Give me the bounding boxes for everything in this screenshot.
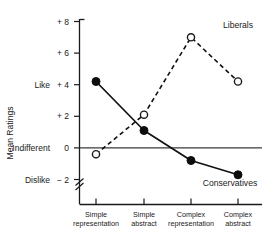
x-category-label-2-line1: Complex	[177, 210, 206, 219]
y-tick-label-zero: 0	[64, 143, 69, 153]
y-axis-break-icon	[76, 179, 84, 205]
series-line-conservatives	[96, 82, 238, 175]
y-label-like: Like	[34, 80, 50, 90]
series-label-conservatives: Conservatives	[203, 178, 257, 188]
x-category-label-0-line2: representation	[73, 219, 119, 228]
data-point-conservatives-1	[140, 127, 148, 135]
series-layer	[92, 34, 242, 179]
x-category-label-3-line2: abstract	[225, 219, 251, 228]
y-tick-label-minus2: − 2	[57, 175, 69, 185]
data-point-liberals-1	[140, 111, 147, 118]
data-point-liberals-3	[234, 78, 241, 85]
y-tick-label-plus2: + 2	[57, 111, 69, 121]
data-point-conservatives-2	[187, 157, 195, 165]
series-label-liberals: Liberals	[223, 20, 253, 30]
x-category-label-0-line1: Simple	[85, 210, 107, 219]
x-category-label-2-line2: representation	[168, 219, 214, 228]
data-point-conservatives-0	[92, 78, 100, 86]
y-tick-label-plus6: + 6	[57, 48, 69, 58]
series-line-liberals	[96, 37, 238, 154]
mean-ratings-line-chart: Mean Ratings + 8 + 6 + 4 + 2 0 − 2	[0, 0, 267, 238]
data-point-liberals-0	[92, 151, 99, 158]
data-point-liberals-2	[187, 34, 194, 41]
y-label-indifferent: Indifferent	[12, 143, 50, 153]
chart-container: Mean Ratings + 8 + 6 + 4 + 2 0 − 2	[0, 0, 267, 238]
x-category-label-1-line2: abstract	[131, 219, 157, 228]
x-category-label-3-line1: Complex	[224, 210, 253, 219]
x-category-label-1-line1: Simple	[133, 210, 155, 219]
y-label-dislike: Dislike	[25, 175, 50, 185]
y-tick-label-plus4: + 4	[57, 80, 69, 90]
y-tick-label-plus8: + 8	[57, 17, 69, 27]
